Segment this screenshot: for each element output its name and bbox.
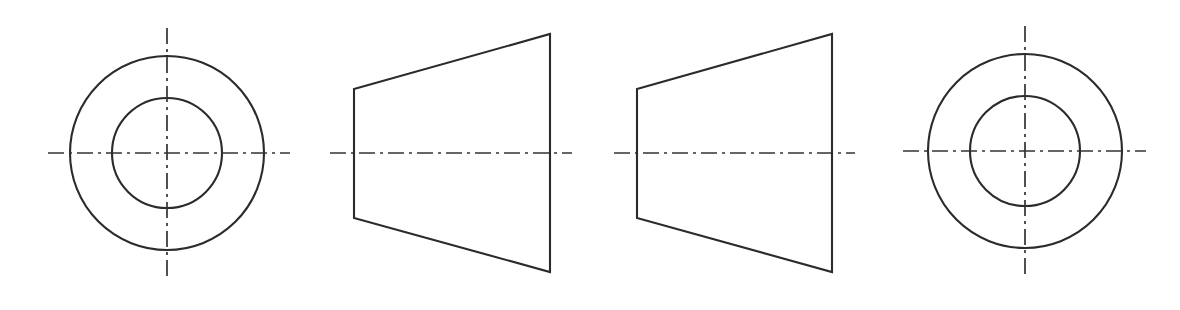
view-end-view-left	[48, 28, 290, 281]
drawing-svg-root	[0, 0, 1180, 310]
view-end-view-right	[903, 26, 1146, 279]
technical-drawing-canvas	[0, 0, 1180, 310]
view-side-view-left	[330, 34, 572, 272]
view-side-view-right	[614, 34, 855, 272]
